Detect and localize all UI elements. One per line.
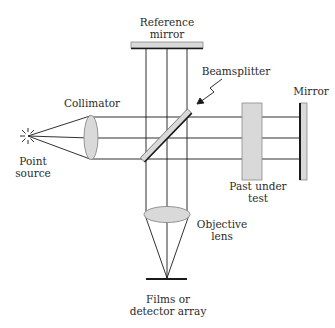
part-under-test <box>242 103 262 180</box>
part-under-test-label: Past under test <box>218 180 298 204</box>
beamsplitter-pointer-arrow <box>197 79 222 104</box>
objective-lens-label: Objective lens <box>192 218 252 242</box>
label-line: detector array <box>125 305 211 317</box>
reference-mirror <box>131 42 203 49</box>
test-mirror <box>300 103 307 180</box>
label-line: Point <box>12 155 54 167</box>
collimator-label: Collimator <box>62 97 122 109</box>
label-line: Mirror <box>289 85 333 97</box>
label-line: Collimator <box>62 97 122 109</box>
detector-label: Films or detector array <box>125 293 211 317</box>
label-line: source <box>12 167 54 179</box>
label-line: test <box>218 192 298 204</box>
label-line: Past under <box>218 180 298 192</box>
label-line: Beamsplitter <box>196 65 276 77</box>
horizontal-beams <box>91 117 300 159</box>
interferometer-diagram: Reference mirror Beamsplitter Mirror Col… <box>0 0 335 328</box>
vertical-beams <box>146 48 187 278</box>
collimator-lens <box>84 116 98 160</box>
point-source-label: Point source <box>12 155 54 179</box>
objective-lens <box>144 207 190 223</box>
mirror-label: Mirror <box>289 85 333 97</box>
label-line: mirror <box>126 28 208 40</box>
label-line: Films or <box>125 293 211 305</box>
source-beams <box>28 116 90 159</box>
label-line: Reference <box>126 16 208 28</box>
reference-mirror-label: Reference mirror <box>126 16 208 40</box>
beamsplitter-label: Beamsplitter <box>196 65 276 77</box>
label-line: lens <box>192 230 252 242</box>
label-line: Objective <box>192 218 252 230</box>
